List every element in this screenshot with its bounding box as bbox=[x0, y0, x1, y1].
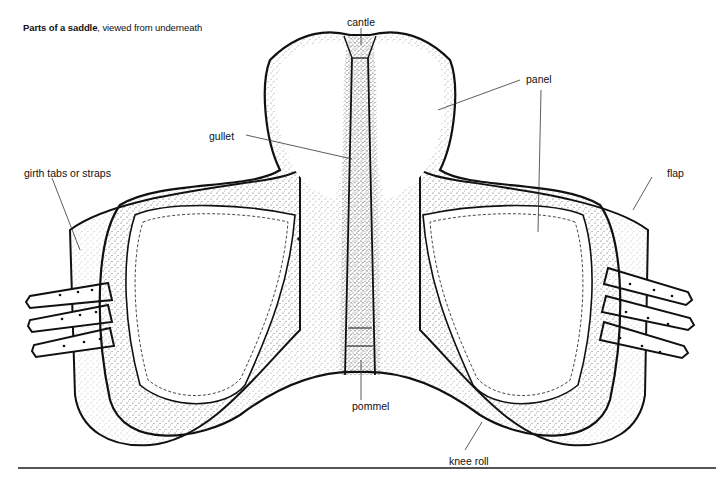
label-pommel: pommel bbox=[352, 400, 389, 412]
saddle-illustration bbox=[0, 0, 718, 486]
label-cantle: cantle bbox=[347, 16, 375, 28]
label-girth-tabs: girth tabs or straps bbox=[24, 167, 111, 179]
label-panel: panel bbox=[526, 73, 552, 85]
rivet-dot bbox=[297, 237, 301, 241]
label-flap: flap bbox=[667, 167, 684, 179]
label-knee-roll: knee roll bbox=[449, 455, 489, 467]
gullet-channel bbox=[340, 36, 380, 375]
bottom-rule bbox=[18, 467, 716, 469]
label-gullet: gullet bbox=[209, 130, 234, 142]
